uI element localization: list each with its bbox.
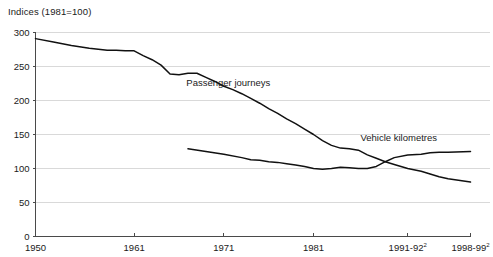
chart-container: Indices (1981=100) 050100150200250300 19… [0,0,493,257]
series-line [188,149,471,169]
y-tick-label: 100 [14,163,30,174]
x-tick-label: 1991-922 [389,242,428,253]
x-axis [36,233,471,237]
y-tick-label: 50 [19,197,30,208]
x-tick-label: 1971 [213,242,234,253]
x-tick-label: 1981 [303,242,324,253]
gridlines [36,33,491,203]
series-annotation-label: Vehicle kilometres [360,132,437,143]
series-annotation-label: Passenger journeys [186,77,270,88]
y-tick-labels: 050100150200250300 [14,27,30,242]
x-tick-label: 1950 [25,242,46,253]
y-tick-label: 0 [24,231,29,242]
y-tick-label: 300 [14,27,30,38]
y-tick-label: 200 [14,95,30,106]
x-tick-label: 1961 [124,242,145,253]
y-tick-label: 150 [14,129,30,140]
x-tick-labels: 19501961197119811991-9221998-992 [25,242,490,253]
y-axis [33,33,36,237]
x-tick-label: 1998-992 [451,242,490,253]
y-tick-label: 250 [14,61,30,72]
chart-plot: 050100150200250300 19501961197119811991-… [0,0,493,257]
data-series [36,39,471,182]
